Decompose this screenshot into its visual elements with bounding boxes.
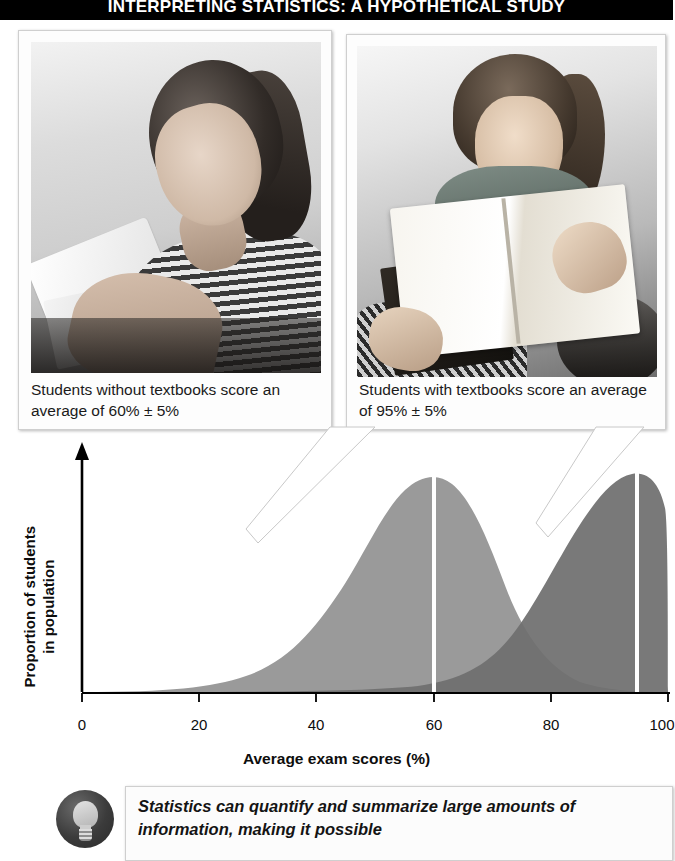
x-tick-40: 40 [308,716,325,733]
caption-with-textbooks: Students with textbooks score an average… [359,380,655,421]
panel-with-textbooks: Students with textbooks score an average… [346,34,666,430]
caption-without-textbooks: Students without textbooks score an aver… [31,380,321,421]
x-tick-0: 0 [78,716,86,733]
student-reading-book-photo [357,46,657,377]
y-axis-arrowhead [75,442,89,460]
x-tick-20: 20 [191,716,208,733]
tip-note: Statistics can quantify and summarize la… [56,786,673,861]
tip-note-text: Statistics can quantify and summarize la… [125,786,673,861]
x-tick-100: 100 [649,716,674,733]
panel-without-textbooks: Students without textbooks score an aver… [18,30,332,430]
x-tick-80: 80 [543,716,560,733]
distribution-chart: Proportion of students in population 0 2… [0,430,673,785]
lightbulb-icon [56,790,114,848]
page-title: INTERPRETING STATISTICS: A HYPOTHETICAL … [0,0,673,20]
tip-note-line1: Statistics can quantify and summarize la… [138,797,482,815]
x-axis-ticks [82,693,668,702]
x-tick-60: 60 [426,716,443,733]
student-reading-papers-photo [31,42,321,373]
chart-plot [0,430,673,720]
chart-x-axis-label: Average exam scores (%) [0,750,673,768]
